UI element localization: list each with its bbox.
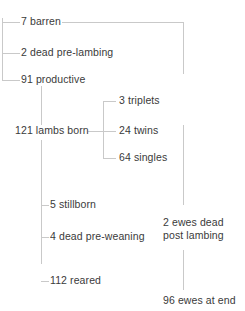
branch-triplets-line: [103, 101, 116, 102]
node-label-singles: 64 singles: [119, 151, 167, 164]
node-label-barren: 7 barren: [21, 15, 61, 28]
node-label-stillborn: 5 stillborn: [50, 198, 96, 211]
node-label-triplets: 3 triplets: [119, 94, 160, 107]
branch-dead-pre-weaning-line: [41, 237, 49, 238]
node-label-dead-pre-lambing: 2 dead pre-lambing: [21, 46, 113, 59]
branch-twins-line: [103, 131, 116, 132]
right-spine-upper-line: [183, 22, 184, 74]
lamb-spine-upper-line: [41, 86, 42, 125]
node-label-ewes-at-end: 96 ewes at end: [163, 294, 236, 307]
node-label-productive: 91 productive: [21, 73, 85, 86]
branch-dead-pre-lambing-line: [2, 53, 20, 54]
flock-flow-diagram: 7 barren 2 dead pre-lambing 91 productiv…: [0, 0, 245, 311]
barren-to-right-spine-line: [62, 22, 184, 23]
node-label-lambs-born: 121 lambs born: [15, 124, 89, 137]
node-label-dead-pre-weaning: 4 dead pre-weaning: [50, 230, 145, 243]
litter-bracket-line: [103, 101, 104, 158]
branch-barren-line: [2, 22, 20, 23]
node-label-ewes-dead-post-lambing: 2 ewes dead post lambing: [163, 216, 245, 242]
ewe-spine-line: [2, 18, 3, 80]
node-label-twins: 24 twins: [119, 124, 158, 137]
node-label-reared: 112 reared: [50, 274, 101, 287]
right-spine-lower-line: [183, 250, 184, 290]
branch-reared-line: [41, 281, 49, 282]
right-spine-middle-line: [183, 125, 184, 205]
branch-singles-line: [103, 158, 116, 159]
branch-productive-line: [2, 80, 20, 81]
lamb-spine-lower-line: [41, 140, 42, 264]
branch-stillborn-line: [41, 205, 49, 206]
